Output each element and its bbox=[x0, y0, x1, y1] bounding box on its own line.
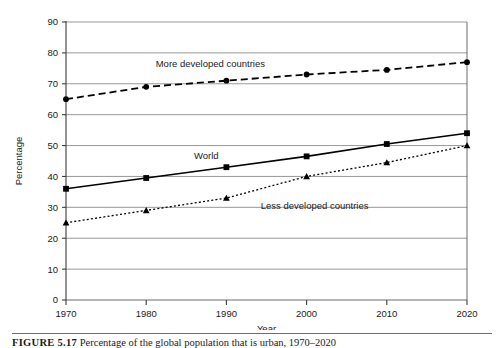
y-tick-label: 90 bbox=[47, 16, 58, 27]
data-marker-square bbox=[304, 153, 310, 159]
data-marker-square bbox=[63, 186, 69, 192]
x-axis-title: Year bbox=[257, 323, 276, 330]
data-marker-circle bbox=[464, 59, 470, 65]
x-tick-label: 2000 bbox=[296, 308, 317, 319]
x-tick-label: 1980 bbox=[136, 308, 157, 319]
y-tick-label: 60 bbox=[47, 109, 58, 120]
x-tick-label: 2010 bbox=[376, 308, 397, 319]
y-tick-label: 50 bbox=[47, 140, 58, 151]
series-label: World bbox=[194, 150, 219, 161]
line-chart: 0102030405060708090 19701980199020002010… bbox=[0, 0, 504, 330]
series-label: Less developed countries bbox=[261, 200, 369, 211]
y-axis: 0102030405060708090 bbox=[47, 16, 66, 305]
x-tick-label: 2020 bbox=[456, 308, 477, 319]
x-tick-label: 1990 bbox=[216, 308, 237, 319]
gridlines bbox=[66, 22, 467, 269]
y-tick-label: 10 bbox=[47, 264, 58, 275]
data-marker-square bbox=[384, 141, 390, 147]
data-marker-square bbox=[143, 175, 149, 181]
data-marker-circle bbox=[63, 96, 69, 102]
figure-caption: FIGURE 5.17 Percentage of the global pop… bbox=[12, 337, 500, 348]
series-line-dotted bbox=[66, 146, 467, 223]
data-marker-circle bbox=[384, 67, 390, 73]
figure-caption-text: Percentage of the global population that… bbox=[80, 337, 336, 348]
data-marker-triangle bbox=[143, 207, 150, 213]
data-marker-triangle bbox=[63, 219, 70, 225]
figure-container: 0102030405060708090 19701980199020002010… bbox=[0, 0, 504, 348]
data-marker-square bbox=[464, 130, 470, 136]
data-marker-square bbox=[224, 164, 230, 170]
y-tick-label: 70 bbox=[47, 78, 58, 89]
series-labels: More developed countriesWorldLess develo… bbox=[156, 58, 369, 211]
data-marker-circle bbox=[304, 72, 310, 78]
figure-number: FIGURE 5.17 bbox=[12, 337, 77, 348]
y-tick-label: 80 bbox=[47, 47, 58, 58]
data-marker-circle bbox=[224, 78, 230, 84]
x-tick-label: 1970 bbox=[55, 308, 76, 319]
y-axis-title: Percentage bbox=[13, 137, 24, 186]
y-tick-label: 30 bbox=[47, 202, 58, 213]
x-axis: 197019801990200020102020 bbox=[55, 300, 477, 319]
y-tick-label: 20 bbox=[47, 233, 58, 244]
series-label: More developed countries bbox=[156, 58, 266, 69]
caption-divider bbox=[12, 333, 492, 334]
y-tick-label: 40 bbox=[47, 171, 58, 182]
data-marker-circle bbox=[143, 84, 149, 90]
y-tick-label: 0 bbox=[53, 294, 58, 305]
series-line-solid bbox=[66, 133, 467, 189]
series-line-dashed bbox=[66, 62, 467, 99]
